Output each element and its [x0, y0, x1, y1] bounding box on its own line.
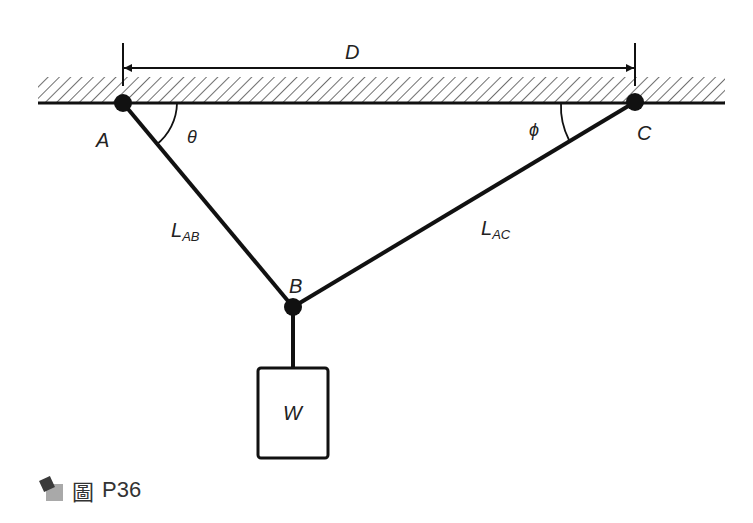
theta-arc	[156, 103, 177, 145]
label-phi: ϕ	[529, 121, 539, 139]
label-length-ac-sub: AC	[492, 227, 510, 242]
caption-prefix: 圖	[72, 474, 94, 506]
label-b: B	[289, 276, 302, 296]
member-ab	[123, 103, 293, 307]
caption-marker-icon	[40, 478, 64, 502]
phi-arc	[561, 103, 569, 140]
figure-caption: 圖 P36	[40, 474, 141, 506]
label-length-ac: LAC	[481, 218, 510, 241]
label-length-ac-main: L	[481, 217, 492, 239]
ceiling	[38, 77, 725, 103]
label-length-ab-main: L	[171, 219, 182, 241]
label-length-ab-sub: AB	[182, 229, 199, 244]
ceiling-hatch	[38, 77, 725, 103]
joint-c	[626, 93, 644, 111]
truss-diagram	[0, 0, 753, 523]
label-c: C	[637, 123, 651, 143]
member-bc	[293, 102, 635, 307]
label-theta: θ	[187, 128, 197, 146]
label-d: D	[345, 42, 359, 62]
label-a: A	[96, 130, 109, 150]
label-length-ab: LAB	[171, 220, 199, 243]
joint-a	[114, 94, 132, 112]
caption-id: P36	[102, 477, 141, 503]
label-w: W	[283, 403, 302, 423]
joint-b	[284, 298, 302, 316]
